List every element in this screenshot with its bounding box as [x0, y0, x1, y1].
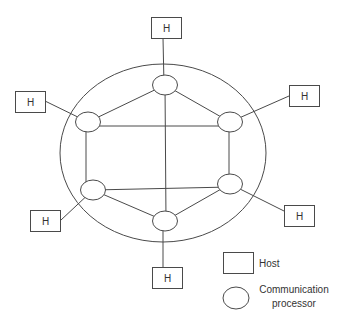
network-diagram: H H H H H H Host Communication processor — [0, 0, 343, 323]
host-label: H — [301, 91, 308, 102]
processor-node — [81, 180, 106, 200]
hosts: H H H H H H — [16, 18, 320, 289]
processor-node — [218, 174, 243, 194]
host-node: H — [285, 206, 315, 227]
link-top-bottom — [165, 85, 166, 221]
host-node: H — [16, 92, 46, 113]
processor-node — [218, 112, 243, 132]
host-node: H — [31, 211, 61, 232]
host-label: H — [27, 97, 34, 108]
legend-processor-label-line2: processor — [272, 298, 317, 309]
link-leftbottom-rightbottom — [93, 187, 230, 190]
host-node: H — [152, 18, 182, 39]
host-label: H — [296, 211, 303, 222]
host-label: H — [42, 216, 49, 227]
host-node: H — [290, 86, 320, 107]
processors — [76, 75, 243, 231]
legend: Host Communication processor — [223, 253, 329, 310]
processor-node — [76, 112, 101, 132]
link-top-lefttop — [88, 85, 165, 122]
host-label: H — [163, 23, 170, 34]
processor-node — [153, 75, 178, 95]
host-links — [45, 38, 289, 267]
legend-processor-swatch — [223, 287, 249, 309]
host-node: H — [153, 268, 183, 289]
host-label: H — [164, 273, 171, 284]
legend-processor-label-line1: Communication — [259, 284, 328, 295]
legend-host-swatch — [224, 253, 254, 274]
processor-node — [153, 211, 178, 231]
legend-host-label: Host — [259, 258, 280, 269]
processor-links — [86, 85, 230, 221]
